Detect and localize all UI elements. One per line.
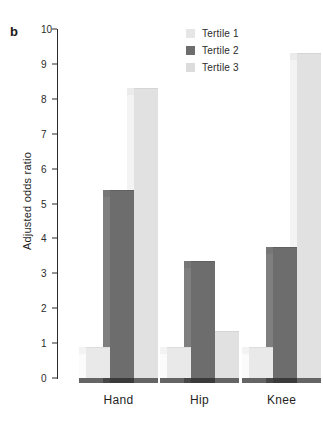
y-axis-tick-label: 6 [41,162,47,175]
bar-knee-tertile-2 [273,247,297,378]
bar-hip-tertile-3 [215,331,239,378]
legend-label: Tertile 3 [202,62,239,73]
y-axis-tick-mark [52,378,57,379]
bar-group-hip [160,28,232,378]
bar-front-face [167,347,191,378]
y-axis-tick-label: 1 [41,337,47,350]
bar-top-face [127,88,134,95]
x-axis-label-knee: Knee [242,393,321,407]
y-axis-tick-mark [52,308,57,309]
bar-front-face [273,247,297,378]
bar-hand-tertile-2 [110,190,134,378]
bar-front-face [86,347,110,378]
bar-hip-tertile-2 [191,261,215,378]
bar-front-face [110,190,134,378]
legend-label: Tertile 1 [202,28,239,39]
bar-top-face [242,347,249,354]
x-axis-label-hip: Hip [160,393,239,407]
y-axis-tick-mark [52,273,57,274]
bar-base-shadow [160,378,191,383]
bar-hip-tertile-1 [167,347,191,378]
bar-side-face [79,354,86,378]
legend-item-tertile-2[interactable]: Tertile 2 [186,43,239,58]
y-axis-tick-mark [52,63,57,64]
legend-swatch-icon [186,63,195,72]
bar-top-face [103,190,110,197]
chart-legend: Tertile 1Tertile 2Tertile 3 [186,26,239,77]
y-axis-tick-label: 5 [41,197,47,210]
bar-top-face [79,347,86,354]
y-axis-tick-label: 4 [41,232,47,245]
y-axis-tick-mark [52,168,57,169]
bar-side-face [242,354,249,378]
bar-cap-edge [249,347,273,348]
bar-base-shadow [79,378,110,383]
y-axis-tick-mark [52,29,57,30]
y-axis-tick-label: 7 [41,127,47,140]
legend-swatch-icon [186,46,195,55]
y-axis-tick-label: 2 [41,302,47,315]
bar-front-face [297,53,321,378]
bar-group-knee [242,28,314,378]
bar-top-face [160,347,167,354]
y-axis-tick-label: 3 [41,267,47,280]
bar-cap-edge [273,247,297,248]
bar-cap-edge [134,88,158,89]
bar-hand-tertile-3 [134,88,158,378]
bar-cap-edge [86,347,110,348]
panel-label: b [10,24,18,39]
y-axis-tick-mark [52,203,57,204]
y-axis-tick-mark [52,98,57,99]
y-axis-title: Adjusted odds ratio [21,111,33,291]
bar-cap-edge [215,331,239,332]
y-axis-tick-label: 0 [41,372,47,385]
bar-front-face [215,331,239,378]
y-axis-tick-mark [52,133,57,134]
x-axis-label-hand: Hand [79,393,158,407]
bar-side-face [160,354,167,378]
plot-area: 012345678910 [57,29,315,378]
bar-top-face [290,53,297,60]
y-axis-tick-label: 10 [41,23,47,36]
bar-cap-edge [167,347,191,348]
bar-knee-tertile-3 [297,53,321,378]
chart-figure: b Adjusted odds ratio 012345678910 HandH… [0,0,323,429]
bar-cap-edge [297,53,321,54]
bar-group-hand [79,28,151,378]
bar-cap-edge [110,190,134,191]
legend-item-tertile-1[interactable]: Tertile 1 [186,26,239,41]
bar-base-shadow [242,378,273,383]
legend-label: Tertile 2 [202,45,239,56]
bar-front-face [134,88,158,378]
y-axis-tick-label: 9 [41,57,47,70]
y-axis-tick-label: 8 [41,92,47,105]
legend-item-tertile-3[interactable]: Tertile 3 [186,60,239,75]
bar-front-face [191,261,215,378]
bar-top-face [184,261,191,268]
y-axis-line [57,29,58,379]
legend-swatch-icon [186,29,195,38]
bar-front-face [249,347,273,378]
bar-cap-edge [191,261,215,262]
bar-top-face [266,247,273,254]
bar-hand-tertile-1 [86,347,110,378]
y-axis-tick-mark [52,343,57,344]
bar-knee-tertile-1 [249,347,273,378]
y-axis-tick-mark [52,238,57,239]
